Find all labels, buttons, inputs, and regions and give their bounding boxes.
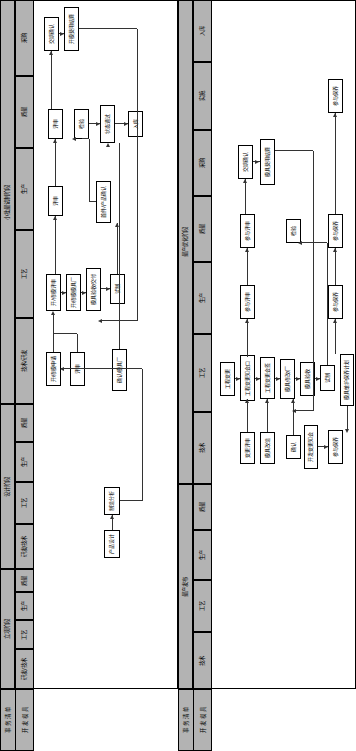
edge-firstarticle-to-inspection [89,139,90,202]
node-confirm-tech[interactable]: 确认 [286,435,301,459]
node-label: 模具维护保养计划 [344,360,349,400]
node-confirm-mold-factory[interactable]: 确认/模具厂 [112,349,127,391]
node-quality-join-maintenance[interactable]: 参与保养 [328,214,343,248]
edge-analysis-right [142,369,143,501]
node-mold-application[interactable]: 开/修模申请 [46,352,61,386]
edge-firstarticle-up [89,201,96,202]
node-engineering-change[interactable]: 工程变更 [220,362,235,396]
node-review-quality[interactable]: 评审 [48,109,63,139]
node-label: 参与保养 [333,221,338,241]
edge-b-maint-quality-to-impl [335,113,336,214]
node-prod-join-review[interactable]: 参与评审 [240,285,255,319]
lane-header-b2-l1: 技术 [193,412,212,484]
lane-header-p1-l1-top: 研发/技术 [15,649,34,689]
node-mold-cost-settlement-b[interactable]: 模具费用结算 [260,139,275,185]
node-label: 开/修模申请 [51,356,56,383]
node-maintenance-plan[interactable]: 模具维护保养计划 [340,354,354,406]
arrowhead [243,179,247,183]
edge-inspection-riser [82,138,89,139]
node-label: 开模费用结算 [69,14,74,44]
node-label: 参与保养 [333,292,338,312]
node-product-design[interactable]: 产品设计 [104,530,120,558]
node-inspection[interactable]: 检验 [74,109,89,139]
node-dev-change-notify[interactable]: 开发变更知会 [304,425,318,469]
lane-header-p2-l3-top: 生产 [15,442,34,482]
lane-label-purchase-p3-top: 采购 [22,33,27,43]
node-impl-join-maintenance[interactable]: 参与保养 [328,79,343,113]
node-quality-join-review[interactable]: 参与评审 [240,214,255,248]
arrowhead [98,319,102,323]
node-mold-factory[interactable]: 开/修模模具厂 [66,274,81,311]
edge-b-inspection-to-trial [327,243,328,365]
arrowhead [333,113,337,117]
node-label: 交期确认 [49,24,54,44]
node-label: 变更评审 [245,438,250,458]
edge-b-maint-to-prod [335,319,336,354]
lane-header-p2-l2-top: 工艺 [15,482,34,524]
node-review-production[interactable]: 评审 [48,186,63,216]
lane-label-tech-b2: 技术 [200,443,205,453]
lane-label-quality-p2-top: 质量 [22,418,27,428]
edge-b-qualityreview-to-delivery [245,179,246,214]
node-label: 试制 [325,373,330,383]
node-label: 参与评审 [245,221,250,241]
arrowhead [53,139,57,143]
lane-header-b2-l4: 质量 [193,196,212,262]
node-tech-join-maintenance[interactable]: 参与保养 [328,430,343,464]
plot-area-top [34,0,178,689]
edge-settlement-loop-up [101,320,137,321]
node-trial-b[interactable]: 试制 [320,365,335,391]
phase-label-2-top: 设计阶段 [5,477,10,497]
lane-header-p3-l4-top: 质量 [15,76,34,148]
arrowhead [316,377,320,381]
arrowhead [53,216,57,220]
corner-row-bottom: 开 发 模 具 [194,690,212,750]
node-prod-join-maintenance[interactable]: 参与保养 [328,285,343,319]
node-mold-acceptance[interactable]: 模具验收/交付 [86,268,101,311]
lane-header-p1-l2-top: 工艺 [15,620,34,649]
node-mold-cost-settlement[interactable]: 开模费用结算 [64,7,79,51]
lane-header-b1-l3: 生产 [193,530,212,580]
edge-b-inspection-riser [301,242,327,243]
phase-header-2-top: 设计阶段 [0,404,15,569]
node-mold-modify-factory[interactable]: 模具修改/厂 [280,359,295,399]
lane-label-research-p2-top: 研发/技术 [22,536,27,558]
arrowhead [115,223,119,227]
node-label: 确认 [291,442,296,452]
lane-label-production-p3-top: 生产 [22,184,27,194]
edge-b-modify-to-process [267,399,268,432]
lane-header-p3-l2-top: 工艺 [15,230,34,318]
lane-label-process-p1-top: 工艺 [22,630,27,640]
edge-b-confirm-to-accept [293,399,294,435]
node-label: 产品设计 [109,534,114,554]
node-manufacturing-analysis[interactable]: 制造分析 [104,487,120,515]
node-change-notify[interactable]: 工程变更知会口 [240,355,255,401]
node-mold-review[interactable]: 开/修模评审 [46,274,61,311]
corner-block-bottom: 事 务 清 单 开 发 模 具 [178,689,212,751]
arrowhead [51,311,55,315]
node-status-pass[interactable]: 状态通过 [100,105,115,143]
corner-title-top: 事 务 清 单 [1,690,16,750]
node-inspection-b[interactable]: 检验 [286,219,301,243]
node-label: 状态通过 [105,114,110,134]
node-label: 开/修模评审 [51,279,56,306]
node-trial-production[interactable]: 试制 [110,274,125,304]
node-change-signoff[interactable]: 工程变更会签 [260,357,275,399]
edge-prodreview-to-qualityreview [55,139,56,186]
lane-header-b2-l6: 实施 [193,62,212,130]
node-label: 评审 [53,119,58,129]
corner-title-bottom: 事 务 清 单 [179,690,194,750]
node-delivery-confirm[interactable]: 交期确认 [44,17,59,51]
phase-label-1-top: 立项阶段 [5,619,10,639]
node-first-article-confirm[interactable]: 首件/产品确认 [96,181,111,223]
arrowhead [245,319,249,323]
node-delivery-confirm-b[interactable]: 交期确认 [238,145,253,179]
node-label: 模具验收 [305,369,310,389]
node-label: 检验 [291,226,296,236]
arrowhead [333,319,337,323]
node-review-tech[interactable]: 评审 [70,352,85,386]
node-mold-modification[interactable]: 模具改造 [260,432,275,464]
node-change-review[interactable]: 变更评审 [240,432,255,464]
node-warehouse-in[interactable]: 入库 [128,111,143,137]
lane-header-b1-l1: 技术 [193,632,212,689]
